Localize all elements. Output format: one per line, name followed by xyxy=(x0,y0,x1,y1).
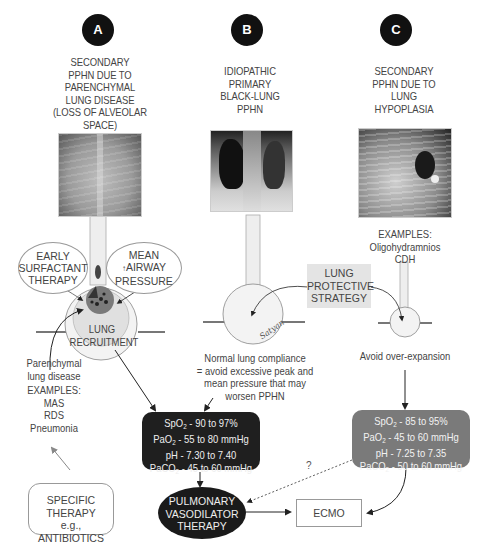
spo2-target-c: SpO2 - 85 to 95% xyxy=(358,415,464,431)
parenchymal-disease-note: Parenchymallung disease EXAMPLES: MASRDS… xyxy=(18,357,90,434)
xray-b xyxy=(210,130,293,212)
question-mark: ? xyxy=(306,460,312,471)
badge-b: B xyxy=(231,14,263,46)
spo2-target-ab: SpO2 - 90 to 97% xyxy=(148,417,254,433)
mean-airway-pressure-oval: MEAN↑AIRWAYPRESSURE xyxy=(106,242,182,294)
badge-c: C xyxy=(380,14,412,46)
normal-compliance-note: Normal lung compliance= avoid excessive … xyxy=(192,352,318,402)
xray-c xyxy=(358,128,452,218)
badge-a: A xyxy=(82,14,114,46)
ph-target-ab: pH - 7.30 to 7.40 xyxy=(148,449,254,462)
pao2-target-c: PaO2 - 45 to 60 mmHg xyxy=(358,431,464,447)
column-b-title: IDIOPATHICPRIMARY BLACK-LUNGPPHN xyxy=(196,65,304,115)
xray-a xyxy=(58,133,142,217)
pao2-target-ab: PaO2 - 55 to 80 mmHg xyxy=(148,433,254,449)
early-surfactant-therapy-oval: EARLYSURFACTANTTHERAPY xyxy=(18,242,88,294)
pulmonary-vasodilator-therapy-oval: PULMONARYVASODILATORTHERAPY xyxy=(158,487,246,539)
lung-protective-strategy-box: LUNGPROTECTIVESTRATEGY xyxy=(307,264,371,308)
paco2-target-ab: PaCO2 - 45 to 60 mmHg xyxy=(148,462,254,478)
column-c-title: SECONDARYPPHN DUE TO LUNGHYPOPLASIA xyxy=(350,65,458,115)
column-a-title: SECONDARYPPHN DUE TO PARENCHYMALLUNG DIS… xyxy=(46,56,154,131)
column-c-examples: EXAMPLES:OligohydramniosCDH xyxy=(360,228,450,266)
paco2-target-c: PaCO2 - 50 to 60 mmHg xyxy=(358,460,464,476)
targets-box-c: SpO2 - 85 to 95% PaO2 - 45 to 60 mmHg pH… xyxy=(352,410,470,468)
ecmo-box: ECMO xyxy=(296,499,362,527)
targets-box-ab: SpO2 - 90 to 97% PaO2 - 55 to 80 mmHg pH… xyxy=(142,412,260,470)
ph-target-c: pH - 7.25 to 7.35 xyxy=(358,447,464,460)
avoid-over-expansion-note: Avoid over-expansion xyxy=(351,350,459,363)
specific-therapy-box: SPECIFICTHERAPYe.g., ANTIBIOTICS xyxy=(28,483,114,535)
lung-recruitment-label: LUNGRECRUITMENT xyxy=(70,323,135,348)
